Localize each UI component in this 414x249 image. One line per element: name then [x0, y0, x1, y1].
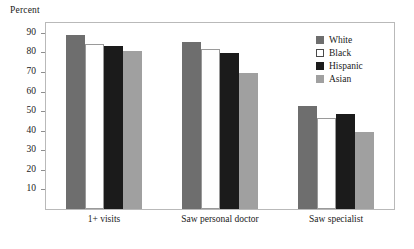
bar-hispanic: [104, 46, 123, 209]
legend-swatch-asian: [316, 75, 324, 83]
y-axis-title: Percent: [10, 5, 40, 15]
bar-asian: [239, 73, 258, 209]
bar-black: [201, 49, 220, 209]
legend-item-label: White: [329, 34, 352, 46]
y-axis-tick-mark: [41, 170, 45, 171]
y-axis-tick-mark: [41, 111, 45, 112]
bar-white: [298, 106, 317, 209]
y-axis-tick-label: 60: [27, 86, 37, 96]
x-axis-label: 1+ visits: [88, 214, 121, 224]
y-axis-tick-mark: [41, 52, 45, 53]
y-axis-tick-label: 50: [27, 105, 37, 115]
y-axis-tick-label: 90: [27, 27, 37, 37]
y-axis-tick-label: 10: [27, 183, 37, 193]
y-axis-tick-mark: [41, 92, 45, 93]
bar-white: [182, 42, 201, 209]
bar-chart: Percent 102030405060708090 1+ visitsSaw …: [0, 0, 414, 249]
legend-item-label: Asian: [329, 73, 351, 85]
bar-hispanic: [336, 114, 355, 209]
y-axis-tick-label: 40: [27, 125, 37, 135]
legend-swatch-white: [316, 36, 324, 44]
y-axis-tick-mark: [41, 72, 45, 73]
bar-black: [317, 118, 336, 209]
legend-item-asian: Asian: [316, 73, 363, 85]
y-axis-tick-label: 20: [27, 164, 37, 174]
y-axis-tick-label: 80: [27, 46, 37, 56]
legend-swatch-black: [316, 49, 324, 57]
y-axis-tick-mark: [41, 131, 45, 132]
legend-item-hispanic: Hispanic: [316, 60, 363, 72]
bar-asian: [355, 132, 374, 209]
bar-hispanic: [220, 53, 239, 209]
legend-item-label: Black: [329, 47, 351, 59]
bar-group: [182, 23, 258, 209]
x-axis-label: Saw personal doctor: [181, 214, 259, 224]
y-axis-tick-label: 70: [27, 66, 37, 76]
y-axis-tick-mark: [41, 150, 45, 151]
legend-swatch-hispanic: [316, 62, 324, 70]
bar-asian: [123, 51, 142, 209]
legend-item-label: Hispanic: [329, 60, 363, 72]
bar-black: [85, 44, 104, 209]
y-axis-tick-mark: [41, 33, 45, 34]
y-axis-tick-mark: [41, 189, 45, 190]
y-axis-tick-label: 30: [27, 144, 37, 154]
bar-white: [66, 35, 85, 209]
legend: WhiteBlackHispanicAsian: [316, 34, 363, 85]
x-axis-label: Saw specialist: [309, 214, 363, 224]
legend-item-white: White: [316, 34, 363, 46]
legend-item-black: Black: [316, 47, 363, 59]
bar-group: [66, 23, 142, 209]
